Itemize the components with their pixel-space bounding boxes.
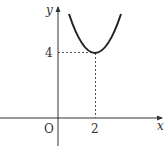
y-axis-label: y: [45, 3, 53, 17]
y-tick-label-4: 4: [45, 46, 53, 60]
x-tick-label-2: 2: [91, 122, 99, 136]
x-axis-label: x: [157, 119, 164, 133]
graph-canvas: y x O 4 2: [0, 0, 164, 154]
parabola-curve: [69, 14, 121, 53]
origin-label: O: [44, 122, 54, 136]
